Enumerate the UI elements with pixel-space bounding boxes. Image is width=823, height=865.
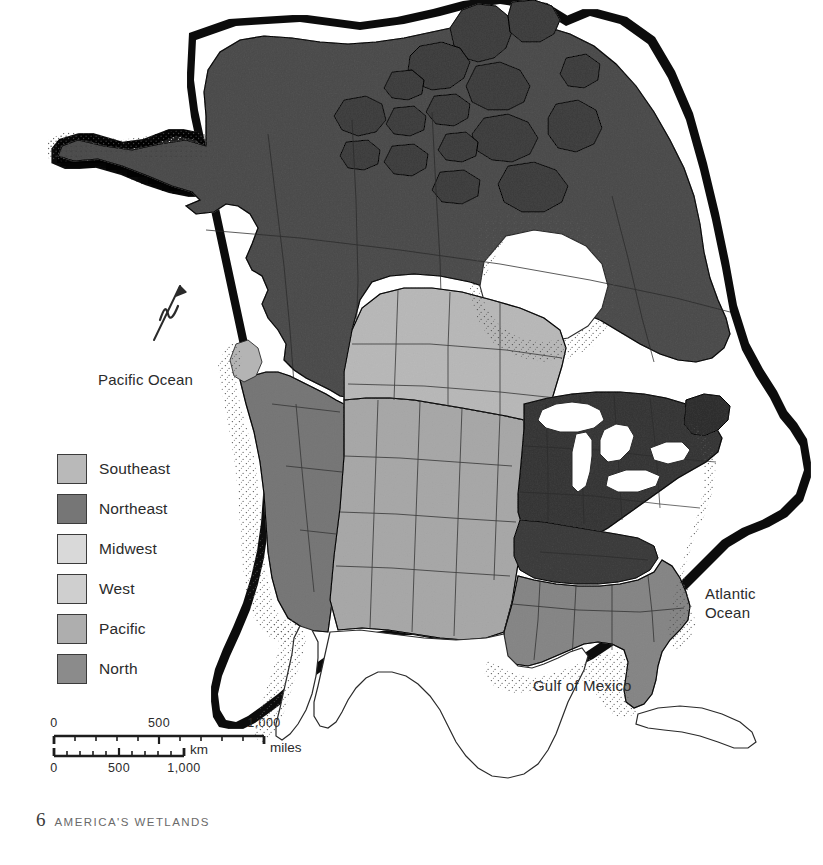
legend-label: Midwest xyxy=(99,540,157,558)
page-footer: 6 AMERICA'S WETLANDS xyxy=(36,809,210,831)
svg-text:500: 500 xyxy=(148,716,170,730)
legend-item-midwest[interactable]: Midwest xyxy=(57,529,247,569)
legend-swatch-west xyxy=(57,574,87,604)
page-number: 6 xyxy=(36,809,46,831)
legend-label: Pacific xyxy=(99,620,146,638)
label-atlantic-ocean: Atlantic Ocean xyxy=(705,585,756,623)
svg-text:0: 0 xyxy=(50,761,57,775)
legend-item-southeast[interactable]: Southeast xyxy=(57,449,247,489)
svg-text:500: 500 xyxy=(108,761,130,775)
scale-bar-km: km 0 500 1,000 xyxy=(50,742,208,775)
svg-text:km: km xyxy=(190,742,208,757)
svg-text:0: 0 xyxy=(50,716,57,730)
legend-swatch-pacific xyxy=(57,614,87,644)
svg-text:1,000: 1,000 xyxy=(167,761,200,775)
legend-swatch-north xyxy=(57,654,87,684)
legend-swatch-midwest xyxy=(57,534,87,564)
legend-swatch-southeast xyxy=(57,454,87,484)
legend-label: Northeast xyxy=(99,500,168,518)
scale-bar-graphic: 0 500 1,000 miles km 0 500 1,000 xyxy=(48,714,308,776)
north-arrow-icon xyxy=(154,286,186,340)
legend-item-pacific[interactable]: Pacific xyxy=(57,609,247,649)
label-gulf-of-mexico: Gulf of Mexico xyxy=(533,677,632,696)
label-pacific-ocean: Pacific Ocean xyxy=(98,371,193,390)
svg-text:miles: miles xyxy=(270,740,302,755)
legend-item-north[interactable]: North xyxy=(57,649,247,689)
map-page: Pacific Ocean Atlantic Ocean Gulf of Mex… xyxy=(0,0,823,865)
legend-swatch-northeast xyxy=(57,494,87,524)
scale-bar: 0 500 1,000 miles km 0 500 1,000 xyxy=(48,714,308,776)
scale-bar-miles: 0 500 1,000 miles xyxy=(50,716,301,755)
legend-item-west[interactable]: West xyxy=(57,569,247,609)
map-legend: SoutheastNortheastMidwestWestPacificNort… xyxy=(57,449,247,689)
legend-label: West xyxy=(99,580,135,598)
legend-item-northeast[interactable]: Northeast xyxy=(57,489,247,529)
legend-label: North xyxy=(99,660,138,678)
cuba xyxy=(636,706,756,748)
book-title: AMERICA'S WETLANDS xyxy=(55,816,210,828)
region-west xyxy=(330,398,524,640)
legend-label: Southeast xyxy=(99,460,170,478)
svg-text:1,000: 1,000 xyxy=(247,716,280,730)
